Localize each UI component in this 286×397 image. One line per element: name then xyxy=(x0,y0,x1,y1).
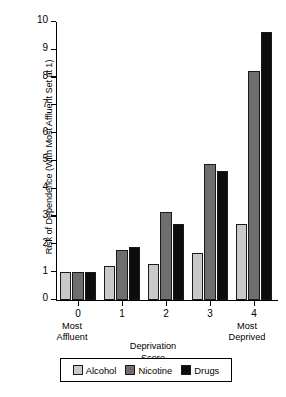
bar-group xyxy=(236,22,272,300)
chart-legend: AlcoholNicotineDrugs xyxy=(60,358,232,382)
y-axis-tick-label: 6 xyxy=(42,126,48,138)
bar-chart-figure: Risk of Dependence (With Most Affluent S… xyxy=(0,0,286,397)
y-axis-tick-label: 8 xyxy=(42,70,48,82)
y-axis-tick: 6 xyxy=(51,132,56,133)
y-axis-tick-label: 0 xyxy=(42,292,48,304)
bar-group xyxy=(192,22,228,300)
bar-group xyxy=(104,22,140,300)
endcap-right-line2: Deprived xyxy=(212,332,282,343)
y-axis-tick-label: 5 xyxy=(42,153,48,165)
x-axis-endcap-right: Most Deprived xyxy=(212,321,282,343)
x-axis-tick-label: 2 xyxy=(146,308,186,320)
y-axis-tick: 8 xyxy=(51,76,56,77)
bar-group xyxy=(60,22,96,300)
bar-alcohol-4[interactable] xyxy=(236,224,248,300)
x-axis-tick-label: 4 xyxy=(234,308,274,320)
legend-item-alcohol[interactable]: Alcohol xyxy=(73,365,117,376)
legend-swatch-drugs-icon xyxy=(181,365,191,375)
bar-drugs-0[interactable] xyxy=(85,272,97,300)
bar-nicotine-3[interactable] xyxy=(204,164,216,300)
y-axis-tick: 1 xyxy=(51,271,56,272)
x-axis-title-line1: Deprivation xyxy=(108,341,198,353)
y-axis-tick: 10 xyxy=(51,21,56,22)
bar-group xyxy=(148,22,184,300)
endcap-left-line2: Affluent xyxy=(37,332,107,343)
y-axis-tick: 4 xyxy=(51,188,56,189)
x-axis-tick xyxy=(210,301,211,306)
bar-alcohol-0[interactable] xyxy=(60,272,72,300)
x-axis-tick xyxy=(166,301,167,306)
bar-nicotine-4[interactable] xyxy=(248,71,260,300)
y-axis-tick-label: 7 xyxy=(42,98,48,110)
x-axis-tick-label: 1 xyxy=(102,308,142,320)
y-axis-tick: 7 xyxy=(51,104,56,105)
legend-swatch-alcohol-icon xyxy=(73,365,83,375)
y-axis-tick: 9 xyxy=(51,49,56,50)
bar-drugs-1[interactable] xyxy=(129,247,141,300)
bar-nicotine-2[interactable] xyxy=(160,212,172,300)
legend-item-drugs[interactable]: Drugs xyxy=(181,365,219,376)
x-axis-endcap-left: Most Affluent xyxy=(37,321,107,343)
y-axis-tick: 0 xyxy=(51,299,56,300)
x-axis-tick xyxy=(122,301,123,306)
legend-swatch-nicotine-icon xyxy=(125,365,135,375)
y-axis-tick-label: 9 xyxy=(42,42,48,54)
y-axis-tick-label: 4 xyxy=(42,181,48,193)
bar-alcohol-2[interactable] xyxy=(148,264,160,300)
y-axis-tick-label: 10 xyxy=(37,14,48,26)
y-axis-tick: 5 xyxy=(51,160,56,161)
bar-nicotine-0[interactable] xyxy=(72,272,84,300)
bar-nicotine-1[interactable] xyxy=(116,250,128,300)
x-axis-tick xyxy=(254,301,255,306)
bar-alcohol-3[interactable] xyxy=(192,253,204,300)
x-axis-tick-label: 0 xyxy=(58,308,98,320)
x-axis-tick xyxy=(78,301,79,306)
x-axis-tick-label: 3 xyxy=(190,308,230,320)
legend-label: Drugs xyxy=(194,365,219,376)
bar-drugs-2[interactable] xyxy=(173,224,185,300)
bar-drugs-4[interactable] xyxy=(261,32,273,300)
y-axis-tick-label: 2 xyxy=(42,237,48,249)
y-axis-tick-label: 1 xyxy=(42,265,48,277)
y-axis-tick: 3 xyxy=(51,215,56,216)
legend-label: Nicotine xyxy=(138,365,172,376)
plot-area: 012345678910 xyxy=(56,22,276,300)
endcap-right-line1: Most xyxy=(212,321,282,332)
endcap-left-line1: Most xyxy=(37,321,107,332)
legend-item-nicotine[interactable]: Nicotine xyxy=(125,365,172,376)
bar-drugs-3[interactable] xyxy=(217,171,229,300)
y-axis-tick: 2 xyxy=(51,243,56,244)
bar-alcohol-1[interactable] xyxy=(104,266,116,300)
legend-label: Alcohol xyxy=(86,365,117,376)
y-axis-tick-label: 3 xyxy=(42,209,48,221)
